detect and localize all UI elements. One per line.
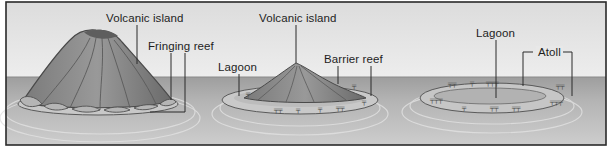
svg-text:╤╤: ╤╤ [489, 104, 499, 112]
svg-text:╤: ╤ [295, 106, 301, 114]
svg-text:╤: ╤ [361, 98, 367, 106]
svg-text:╤: ╤ [317, 105, 323, 113]
label-volcanic-island-2: Volcanic island [259, 12, 337, 24]
svg-text:╤╤: ╤╤ [447, 80, 457, 88]
svg-text:╤╤: ╤╤ [555, 82, 565, 90]
label-atoll: Atoll [536, 46, 563, 58]
svg-text:╤╤╤: ╤╤╤ [429, 96, 443, 104]
label-lagoon-2: Lagoon [218, 61, 257, 73]
svg-text:╤: ╤ [245, 90, 251, 98]
svg-text:╤: ╤ [461, 104, 467, 112]
svg-text:╤╤: ╤╤ [511, 104, 521, 112]
svg-text:╤: ╤ [351, 82, 357, 90]
reef-formation-diagram: ╤ ╤╤ ╤ ╤ ╤╤ ╤ ╤ ╤╤ ╤ ╤╤╤ ╤╤ ╤╤╤ ╤ ╤╤ ╤╤ [0, 0, 612, 149]
svg-text:╤: ╤ [469, 79, 475, 87]
label-fringing-reef: Fringing reef [148, 40, 214, 52]
svg-text:╤╤╤: ╤╤╤ [485, 79, 499, 87]
svg-text:╤╤: ╤╤ [335, 104, 345, 112]
svg-text:╤╤╤: ╤╤╤ [549, 98, 563, 106]
label-barrier-reef: Barrier reef [324, 53, 383, 65]
label-volcanic-island-1: Volcanic island [106, 12, 184, 24]
svg-text:╤╤: ╤╤ [273, 106, 283, 114]
label-lagoon-3: Lagoon [476, 27, 515, 39]
